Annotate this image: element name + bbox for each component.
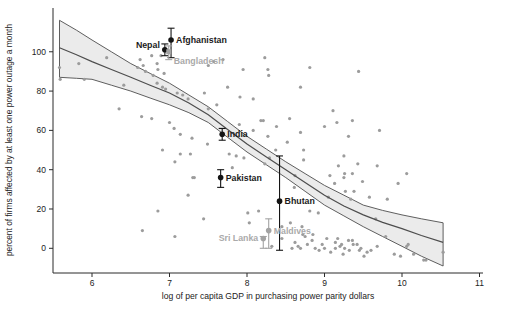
scatter-point	[343, 172, 346, 175]
scatter-point	[293, 186, 296, 189]
y-tick-label: 60	[37, 125, 47, 135]
scatter-point	[334, 247, 337, 250]
scatter-point	[238, 123, 241, 126]
scatter-point	[252, 97, 255, 100]
scatter-point	[286, 141, 289, 144]
scatter-point	[397, 182, 400, 185]
scatter-point	[142, 64, 145, 67]
country-marker-afghanistan	[168, 37, 174, 43]
scatter-point	[163, 72, 166, 75]
x-tick-label: 7	[167, 278, 172, 288]
scatter-point	[173, 160, 176, 163]
scatter-point	[280, 237, 283, 240]
scatter-point	[378, 129, 381, 132]
x-tick-label: 11	[475, 278, 484, 288]
scatter-point	[362, 255, 365, 258]
scatter-point	[168, 121, 171, 124]
scatter-point	[257, 209, 260, 212]
scatter-point	[226, 86, 229, 89]
scatter-point	[337, 164, 340, 167]
scatter-point	[376, 245, 379, 248]
scatter-point	[139, 58, 142, 61]
scatter-point	[179, 133, 182, 136]
scatter-point	[342, 154, 345, 157]
scatter-point	[351, 119, 354, 122]
scatter-point	[299, 131, 302, 134]
scatter-point	[288, 117, 291, 120]
y-tick-label: 80	[37, 86, 47, 96]
scatter-point	[266, 68, 269, 71]
scatter-point	[308, 209, 311, 212]
scatter-point	[275, 125, 278, 128]
scatter-point	[407, 243, 410, 246]
scatter-point	[328, 174, 331, 177]
scatter-point	[336, 237, 339, 240]
scatter-point	[164, 88, 167, 91]
scatter-point	[299, 86, 302, 89]
scatter-point	[202, 217, 205, 220]
scatter-point	[144, 70, 147, 73]
country-label-afghanistan: Afghanistan	[176, 35, 227, 45]
scatter-point	[331, 109, 334, 112]
scatter-point	[140, 115, 143, 118]
scatter-point	[352, 190, 355, 193]
scatter-point	[369, 249, 372, 252]
scatter-point	[150, 117, 153, 120]
scatter-point	[274, 148, 277, 151]
scatter-point	[368, 196, 371, 199]
scatter-point	[252, 129, 255, 132]
scatter-point	[141, 229, 144, 232]
scatter-point	[311, 233, 314, 236]
scatter-point	[59, 78, 62, 81]
scatter-point	[173, 235, 176, 238]
scatter-point	[405, 172, 408, 175]
scatter-point	[342, 176, 345, 179]
scatter-point	[122, 84, 125, 87]
y-tick-label: 40	[37, 165, 47, 175]
scatter-point	[118, 107, 121, 110]
country-marker-sri-lanka	[260, 236, 266, 242]
scatter-point	[246, 211, 249, 214]
scatter-point	[105, 56, 108, 59]
scatter-point	[173, 127, 176, 130]
scatter-point	[356, 243, 359, 246]
scatter-point	[238, 95, 241, 98]
scatter-point	[357, 70, 360, 73]
x-tick-label: 6	[90, 278, 95, 288]
scatter-point	[187, 194, 190, 197]
scatter-point	[189, 152, 192, 155]
y-tick-label: 0	[41, 243, 46, 253]
country-marker-bangladesh	[166, 49, 171, 54]
scatter-point	[77, 62, 80, 65]
scatter-point	[150, 54, 153, 57]
country-marker-bhutan	[277, 198, 283, 204]
scatter-point	[293, 241, 296, 244]
scatter-point	[376, 164, 379, 167]
scatter-point	[424, 259, 427, 262]
scatter-point	[263, 162, 266, 165]
scatter-point	[228, 152, 231, 155]
x-tick-label: 9	[322, 278, 327, 288]
scatter-point	[347, 239, 350, 242]
scatter-point	[193, 176, 196, 179]
country-label-pakistan: Pakistan	[226, 173, 262, 183]
scatter-point	[215, 103, 218, 106]
scatter-point	[412, 253, 415, 256]
x-tick-label: 8	[245, 278, 250, 288]
scatter-point	[384, 235, 387, 238]
x-axis-title: log of per capita GDP in purchasing powe…	[162, 291, 374, 301]
y-tick-label: 100	[32, 47, 46, 57]
country-label-india: India	[227, 129, 248, 139]
scatter-point	[399, 255, 402, 258]
scatter-point	[344, 190, 347, 193]
scatter-point	[342, 253, 345, 256]
scatter-point	[181, 93, 184, 96]
scatter-point	[351, 172, 354, 175]
scatter-point	[335, 121, 338, 124]
scatter-point	[156, 62, 159, 65]
country-label-nepal: Nepal	[136, 40, 160, 50]
scatter-point	[207, 107, 210, 110]
scatter-point	[259, 119, 262, 122]
scatter-point	[334, 241, 337, 244]
scatter-point	[176, 91, 179, 94]
